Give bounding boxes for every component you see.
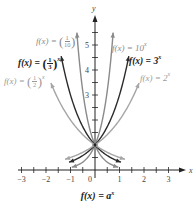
- curve-arrow-icon: [65, 156, 70, 160]
- label-10-power-x: f(x) = 10x: [112, 41, 147, 53]
- y-axis-arrow-icon: [93, 15, 98, 22]
- y-tick-label: 3: [85, 91, 89, 100]
- x-tick-label: −3: [17, 175, 26, 184]
- y-tick-label: 5: [85, 41, 89, 50]
- chart-caption: f(x) = ax: [0, 190, 195, 201]
- x-tick-label: 2: [142, 175, 146, 184]
- y-axis-label: y: [91, 4, 96, 13]
- x-axis-arrow-icon: [179, 168, 186, 173]
- curve-f-x-1-3-x: [61, 56, 121, 162]
- x-axis-label: x: [188, 166, 193, 175]
- x-tick-label: −2: [42, 175, 51, 184]
- x-tick-label: −1: [66, 175, 75, 184]
- intersection-point: [94, 144, 97, 147]
- curve-arrow-icon: [119, 156, 124, 160]
- label-3-power-x: f(x) = 3x: [129, 54, 161, 67]
- y-tick-label: 4: [85, 66, 89, 75]
- axes: xy−3−2−10123345: [17, 4, 193, 184]
- curve-arrow-icon: [111, 33, 115, 38]
- x-tick-label: 0: [88, 175, 92, 184]
- label-one-third-power-x: f(x) = (13)x: [18, 56, 60, 71]
- x-tick-label: 3: [167, 175, 171, 184]
- label-one-half-power-x: f(x) = (12)x: [4, 74, 45, 89]
- label-one-tenth-power-x: f(x) = (110)x: [36, 34, 78, 49]
- curve-f-x-3-x: [69, 56, 129, 162]
- x-tick-label: 1: [118, 175, 122, 184]
- exponential-functions-chart: xy−3−2−10123345: [0, 0, 195, 204]
- label-2-power-x: f(x) = 2x: [140, 71, 170, 83]
